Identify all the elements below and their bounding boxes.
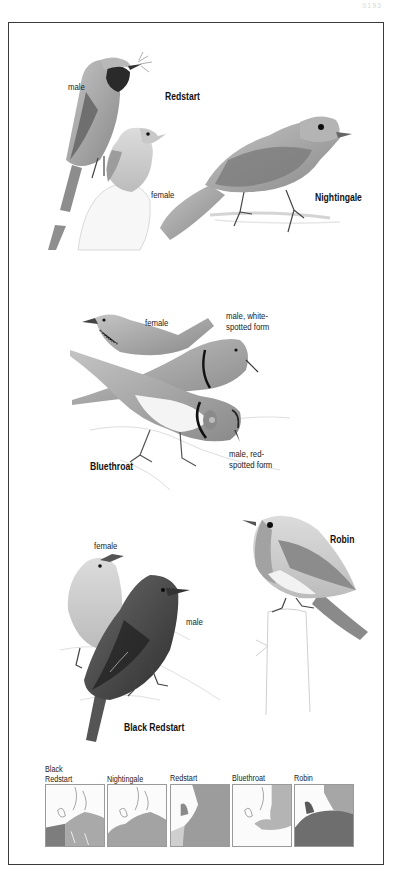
map-label-nightingale: Nightingale	[107, 774, 143, 784]
redstart-illustration	[48, 52, 166, 250]
redstart-female-label: female	[151, 189, 174, 200]
bluethroat-species-title: Bluethroat	[90, 461, 133, 472]
black-redstart-female-label: female	[94, 540, 117, 551]
range-map-robin	[294, 784, 354, 847]
range-map-nightingale	[107, 784, 167, 847]
bluethroat-male-white-label-line2: spotted form	[226, 321, 269, 332]
bluethroat-female-label: female	[145, 317, 168, 328]
bluethroat-male-red-label-line2: spotted form	[229, 459, 272, 470]
robin-illustration	[242, 516, 368, 715]
map-label-black-redstart-line1: Black	[45, 764, 63, 774]
map-label-robin: Robin	[294, 773, 313, 783]
bird-illustrations	[0, 0, 402, 885]
nightingale-species-title: Nightingale	[315, 192, 362, 203]
map-label-redstart: Redstart	[170, 773, 197, 783]
bluethroat-male-red-label-line1: male, red-	[229, 448, 264, 459]
black-redstart-species-title: Black Redstart	[124, 722, 184, 733]
black-redstart-male-label: male	[186, 616, 203, 627]
nightingale-illustration	[160, 116, 352, 240]
robin-species-title: Robin	[330, 534, 354, 545]
black-redstart-illustration	[60, 554, 220, 742]
map-label-bluethroat: Bluethroat	[232, 773, 265, 783]
range-map-bluethroat	[232, 784, 292, 847]
redstart-male-label: male	[68, 81, 85, 92]
europe-map-icon	[46, 785, 104, 846]
map-label-black-redstart-line2: Redstart	[45, 774, 72, 784]
bluethroat-male-white-label-line1: male, white-	[226, 310, 268, 321]
range-map-black-redstart	[45, 784, 105, 847]
redstart-species-title: Redstart	[165, 91, 200, 102]
range-map-redstart	[170, 784, 230, 847]
